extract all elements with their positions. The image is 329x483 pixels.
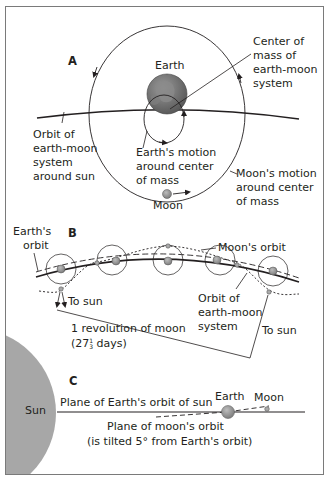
moon-c-label: Moon: [254, 391, 284, 404]
to-sun-left-label: To sun: [67, 295, 103, 308]
svg-text:system: system: [253, 77, 293, 90]
svg-text:around center: around center: [236, 181, 314, 194]
earth-label: Earth: [155, 59, 185, 72]
svg-text:earth-moon: earth-moon: [198, 306, 262, 319]
svg-text:earth-moon: earth-moon: [33, 142, 97, 155]
plane-moon-label: Plane of moon's orbit: [107, 420, 224, 433]
earth-globe: [147, 74, 187, 114]
panel-a-letter: A: [68, 54, 77, 68]
panel-c-letter: C: [69, 374, 77, 388]
sun-label: Sun: [25, 404, 46, 417]
moons-orbit-leader: [201, 248, 216, 250]
earth-c-body: [222, 406, 235, 419]
svg-text:Orbit of: Orbit of: [33, 128, 76, 141]
system-orbit-b-leader: [236, 273, 247, 289]
moon-c-body: [265, 407, 270, 412]
svg-text:Center of: Center of: [253, 35, 305, 48]
plane-earth-label: Plane of Earth's orbit of sun: [60, 396, 212, 409]
panel-c: Sun C Plane of Earth's orbit of sun Eart…: [6, 328, 305, 475]
tilt-note-label: (is tilted 5° from Earth's orbit): [87, 435, 252, 448]
revolution-days-label: (2713 days): [71, 337, 127, 350]
diagram-frame: A Earth Center of mass of earth-moon sys…: [5, 6, 324, 475]
center-of-mass-label: Center of mass of earth-moon system: [253, 35, 317, 90]
svg-text:around sun: around sun: [33, 170, 95, 183]
svg-text:mass of: mass of: [253, 49, 297, 62]
panel-a: A Earth Center of mass of earth-moon sys…: [33, 26, 317, 212]
system-orbit-leader: [62, 112, 64, 123]
to-sun-right-label: To sun: [261, 324, 297, 337]
revolution-label: 1 revolution of moon: [71, 322, 186, 335]
orbit-arrow-left-icon: [94, 67, 97, 76]
earths-orbit-leader: [34, 253, 38, 271]
svg-text:of mass: of mass: [136, 174, 179, 187]
earths-orbit-label: Earth's orbit: [13, 225, 52, 252]
svg-text:system: system: [33, 156, 73, 169]
svg-text:around center: around center: [136, 160, 214, 173]
earth-moon-diagram: A Earth Center of mass of earth-moon sys…: [6, 7, 324, 475]
moon-body: [163, 190, 172, 199]
moon-motion-arrow-icon: [173, 192, 189, 194]
sun-disc: [6, 328, 56, 475]
svg-text:orbit: orbit: [23, 239, 49, 252]
to-sun-left-arrow2-icon: [62, 292, 65, 306]
svg-text:Earth's: Earth's: [13, 225, 52, 238]
earth-motion-label: Earth's motion around center of mass: [136, 146, 216, 187]
moon-label: Moon: [153, 199, 183, 212]
moon-motion-label: Moon's motion around center of mass: [236, 167, 317, 208]
system-orbit-label: Orbit of earth-moon system around sun: [33, 128, 97, 183]
svg-text:Earth's motion: Earth's motion: [136, 146, 216, 159]
svg-text:earth-moon: earth-moon: [253, 63, 317, 76]
svg-text:of mass: of mass: [236, 195, 279, 208]
panel-b-letter: B: [68, 226, 77, 240]
panel-b: B Earth's orbit Moon's orbit: [13, 225, 299, 358]
system-orbit-b-label: Orbit of earth-moon system: [198, 292, 262, 333]
svg-text:Orbit of: Orbit of: [198, 292, 241, 305]
to-sun-left-arrow-icon: [57, 292, 60, 306]
svg-text:system: system: [198, 320, 238, 333]
svg-text:Moon's motion: Moon's motion: [236, 167, 317, 180]
earth-c-label: Earth: [215, 390, 245, 403]
